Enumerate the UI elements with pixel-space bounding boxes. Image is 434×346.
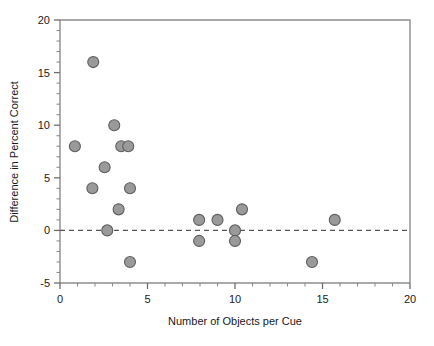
data-point [88, 57, 99, 68]
scatter-plot-figure: -505101520 05101520 Number of Objects pe… [0, 0, 434, 346]
x-tick-label: 20 [404, 293, 416, 305]
data-point [109, 120, 120, 131]
y-tick-label: 5 [44, 172, 50, 184]
y-tick-label: 15 [38, 67, 50, 79]
data-point [125, 183, 136, 194]
x-tick-label: 10 [229, 293, 241, 305]
data-point [237, 204, 248, 215]
x-tick-label: 0 [57, 293, 63, 305]
data-point [212, 214, 223, 225]
y-axis-title: Difference in Percent Correct [8, 81, 20, 223]
data-point [194, 214, 205, 225]
data-point [125, 256, 136, 267]
data-point [329, 214, 340, 225]
data-point [87, 183, 98, 194]
x-tick-label: 15 [316, 293, 328, 305]
data-point [230, 235, 241, 246]
data-point [102, 225, 113, 236]
figure-background [0, 0, 434, 346]
y-tick-label: 10 [38, 119, 50, 131]
data-point [230, 225, 241, 236]
y-tick-label: 0 [44, 224, 50, 236]
data-point [99, 162, 110, 173]
data-point [69, 141, 80, 152]
data-point [307, 256, 318, 267]
y-tick-label: 20 [38, 14, 50, 26]
data-point [194, 235, 205, 246]
x-axis-title: Number of Objects per Cue [168, 315, 302, 327]
data-point [113, 204, 124, 215]
y-tick-label: -5 [40, 277, 50, 289]
x-tick-label: 5 [144, 293, 150, 305]
data-point [123, 141, 134, 152]
